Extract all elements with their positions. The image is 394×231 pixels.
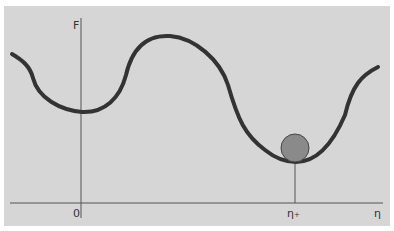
x-axis-label: η — [374, 207, 381, 220]
free-energy-diagram: F 0 η₊ η — [0, 0, 394, 231]
equilibrium-label: η₊ — [287, 207, 300, 220]
y-axis-label: F — [73, 19, 79, 32]
ball — [281, 134, 309, 162]
panel-background — [4, 6, 390, 226]
origin-label: 0 — [73, 207, 80, 220]
